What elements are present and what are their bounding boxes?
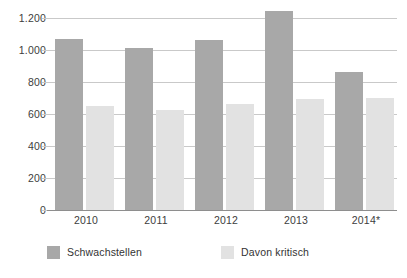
- bar-davon-kritisch-2010: [86, 106, 114, 210]
- y-axis-label-1000: 1.000: [6, 45, 46, 56]
- legend-item-schwachstellen[interactable]: Schwachstellen: [47, 246, 142, 259]
- legend-swatch-icon-davon-kritisch: [221, 246, 234, 259]
- legend-swatch-icon-schwachstellen: [47, 246, 60, 259]
- bar-group-2012: [195, 18, 257, 210]
- bar-schwachstellen-2010: [55, 39, 83, 210]
- x-axis-label-2013: 2013: [265, 215, 327, 226]
- legend-label-davon-kritisch: Davon kritisch: [241, 247, 309, 258]
- y-axis-label-1200: 1.200: [6, 13, 46, 24]
- bar-schwachstellen-2014: [335, 72, 363, 210]
- y-axis-label-400: 400: [6, 141, 46, 152]
- legend-item-davon-kritisch[interactable]: Davon kritisch: [221, 246, 309, 259]
- x-axis-label-2010: 2010: [55, 215, 117, 226]
- chart-legend: Schwachstellen Davon kritisch: [47, 246, 309, 259]
- y-axis-label-200: 200: [6, 173, 46, 184]
- y-axis-label-800: 800: [6, 77, 46, 88]
- bar-schwachstellen-2012: [195, 40, 223, 210]
- legend-label-schwachstellen: Schwachstellen: [67, 247, 142, 258]
- x-axis-label-2014: 2014*: [335, 215, 397, 226]
- bar-group-2010: [55, 18, 117, 210]
- plot-area: [47, 18, 397, 210]
- bar-davon-kritisch-2014: [366, 98, 394, 210]
- x-axis-baseline: [47, 210, 397, 211]
- bar-chart: 1.200 1.000 800 600 400 200 0: [0, 0, 407, 278]
- y-axis-label-600: 600: [6, 109, 46, 120]
- x-axis-label-2011: 2011: [125, 215, 187, 226]
- y-axis-label-0: 0: [6, 205, 46, 216]
- bar-schwachstellen-2013: [265, 11, 293, 210]
- bar-group-2011: [125, 18, 187, 210]
- bar-davon-kritisch-2012: [226, 104, 254, 210]
- x-axis-label-2012: 2012: [195, 215, 257, 226]
- bar-group-2013: [265, 18, 327, 210]
- bar-group-2014: [335, 18, 397, 210]
- bar-schwachstellen-2011: [125, 48, 153, 210]
- bar-davon-kritisch-2013: [296, 99, 324, 210]
- bar-davon-kritisch-2011: [156, 110, 184, 210]
